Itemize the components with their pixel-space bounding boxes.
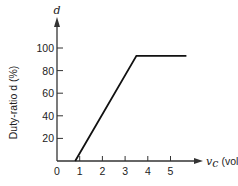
- y-axis-label: Duty-ratio d (%): [7, 66, 19, 140]
- x-axis-label: vc(volts): [206, 155, 238, 170]
- x-axis-unit: (volts): [221, 155, 238, 167]
- y-tick-label: 20: [42, 132, 54, 144]
- x-axis-arrow-icon: [194, 158, 203, 164]
- x-axis-sub: c: [212, 157, 218, 170]
- x-tick-label: 5: [168, 165, 174, 177]
- x-tick-label: 1: [77, 165, 83, 177]
- y-tick-label: 40: [42, 110, 54, 122]
- y-tick-label: 60: [42, 87, 54, 99]
- x-tick-label: 4: [145, 165, 151, 177]
- duty-ratio-chart: 01234520406080100 dDuty-ratio d (%)vc(vo…: [0, 0, 238, 186]
- y-tick-label: 100: [36, 42, 54, 54]
- data-series: [75, 56, 186, 161]
- y-tick-label: 80: [42, 65, 54, 77]
- x-tick-label: 3: [122, 165, 128, 177]
- y-axis-arrow-icon: [54, 17, 60, 27]
- series-line: [75, 56, 186, 161]
- axes: [54, 17, 203, 164]
- y-axis-symbol: d: [53, 4, 60, 17]
- x-tick-label: 0: [54, 165, 60, 177]
- x-tick-label: 2: [99, 165, 105, 177]
